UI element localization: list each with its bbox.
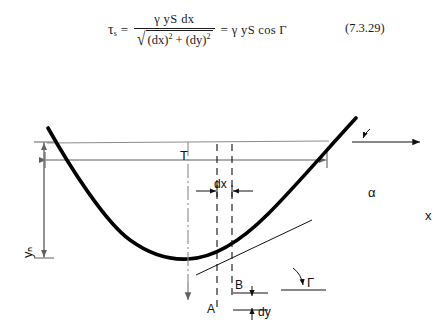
alpha-angle-arc bbox=[363, 129, 370, 138]
label-normal-depth: yₙ bbox=[20, 247, 35, 259]
equation-block: τs = γ yS dx √ (dx)2 + (dy)2 = bbox=[0, 8, 445, 70]
figure-page: τs = γ yS dx √ (dx)2 + (dy)2 = bbox=[0, 0, 445, 320]
channel-cross-section-figure: T dx α x yₙ A B dy Γ y bbox=[0, 72, 445, 320]
label-x-axis: x bbox=[425, 208, 432, 223]
alpha-angle bbox=[363, 129, 370, 138]
plus-sign: + bbox=[176, 33, 183, 47]
label-dy: dy bbox=[258, 305, 271, 319]
equation-expression: τs = γ yS dx √ (dx)2 + (dy)2 = bbox=[108, 12, 287, 48]
gamma-angle-arc bbox=[293, 268, 303, 285]
label-top-width: T bbox=[180, 148, 188, 163]
square-root: √ (dx)2 + (dy)2 bbox=[136, 30, 212, 48]
radical-body: (dx)2 + (dy)2 bbox=[146, 30, 213, 48]
label-point-a: A bbox=[207, 302, 215, 316]
label-alpha: α bbox=[368, 185, 376, 200]
figure-svg bbox=[0, 72, 445, 320]
dy-squared-term: (dy)2 bbox=[186, 33, 211, 47]
equals-sign-1: = bbox=[121, 22, 128, 38]
label-slope-angle: Γ bbox=[307, 275, 314, 290]
fraction-numerator: γ yS dx bbox=[148, 12, 200, 28]
shear-stress-symbol: τs bbox=[108, 22, 117, 38]
label-point-b: B bbox=[235, 278, 243, 292]
dx-squared-term: (dx)2 bbox=[148, 33, 173, 47]
slope-angle-gamma bbox=[281, 268, 326, 290]
normal-depth-dimension bbox=[34, 142, 54, 258]
equals-sign-2: = bbox=[221, 22, 228, 38]
channel-bank-curve bbox=[48, 118, 356, 259]
label-dx: dx bbox=[214, 177, 227, 191]
equation-number: (7.3.29) bbox=[345, 21, 385, 36]
radical-sign: √ bbox=[137, 31, 145, 49]
equation-right-hand-side: γ yS cos Γ bbox=[232, 23, 287, 38]
fraction: γ yS dx √ (dx)2 + (dy)2 bbox=[134, 12, 214, 48]
fraction-denominator: √ (dx)2 + (dy)2 bbox=[134, 29, 214, 48]
